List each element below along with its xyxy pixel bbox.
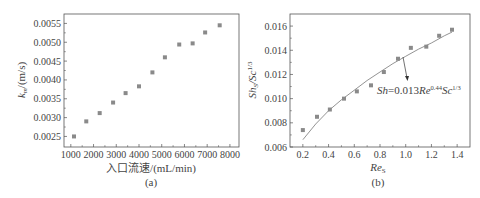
data-point bbox=[437, 34, 441, 38]
data-point bbox=[301, 128, 305, 132]
svg-text:km/(m/s): km/(m/s) bbox=[15, 62, 29, 99]
panel-label-a: (a) bbox=[145, 176, 158, 189]
panel-label-b: (b) bbox=[372, 176, 385, 189]
y-tick-label: 0.012 bbox=[265, 69, 288, 80]
plot-frame-a bbox=[64, 14, 239, 147]
y-tick-label: 0.0025 bbox=[34, 131, 62, 142]
data-point bbox=[409, 46, 413, 50]
data-point bbox=[315, 115, 319, 119]
fit-equation-annotation: Sh=0.013Re0.44Sc1/3 bbox=[377, 84, 461, 96]
x-tick-label: 1000 bbox=[61, 149, 81, 160]
chart-b: 0.0060.0080.0100.0120.0140.016 0.20.40.6… bbox=[246, 14, 470, 189]
x-tick-label: 5000 bbox=[152, 149, 172, 160]
data-point bbox=[328, 108, 332, 112]
x-tick-label: 3000 bbox=[106, 149, 126, 160]
x-axis-label-b: ReS bbox=[369, 161, 386, 175]
x-tick-label: 0.6 bbox=[348, 149, 361, 160]
x-tick-label: 0.8 bbox=[374, 149, 387, 160]
chart-a: 0.00250.00300.00350.00400.00450.00500.00… bbox=[15, 14, 240, 189]
x-tick-label: 1.4 bbox=[451, 149, 464, 160]
x-tick-label: 6000 bbox=[174, 149, 194, 160]
data-point bbox=[163, 55, 167, 59]
x-axis-label-a: 入口流速/(mL/min) bbox=[106, 161, 196, 175]
data-point bbox=[177, 43, 181, 47]
y-tick-label: 0.0050 bbox=[34, 37, 62, 48]
data-point bbox=[424, 45, 428, 49]
data-point bbox=[98, 111, 102, 115]
y-tick-label: 0.008 bbox=[265, 117, 288, 128]
x-tick-label: 1.2 bbox=[425, 149, 438, 160]
y-tick-label: 0.0055 bbox=[34, 18, 62, 29]
y-tick-label: 0.014 bbox=[265, 45, 288, 56]
data-point bbox=[218, 23, 222, 27]
y-tick-label: 0.010 bbox=[265, 93, 288, 104]
data-point bbox=[396, 57, 400, 61]
data-point bbox=[450, 28, 454, 32]
y-axis-label-a: km/(m/s) bbox=[15, 62, 29, 99]
plot-frame-b bbox=[290, 14, 470, 147]
x-axis-ticks-b: 0.20.40.60.81.01.21.4 bbox=[297, 144, 464, 160]
y-axis-ticks-b: 0.0060.0080.0100.0120.0140.016 bbox=[265, 21, 294, 153]
y-tick-label: 0.0040 bbox=[34, 74, 62, 85]
data-point bbox=[382, 70, 386, 74]
x-tick-label: 8000 bbox=[220, 149, 240, 160]
data-point bbox=[203, 30, 207, 34]
y-tick-label: 0.016 bbox=[265, 21, 288, 32]
x-tick-label: 4000 bbox=[129, 149, 149, 160]
data-point bbox=[84, 119, 88, 123]
data-point bbox=[342, 97, 346, 101]
data-point bbox=[355, 89, 359, 93]
y-tick-label: 0.006 bbox=[265, 142, 288, 153]
annotation-arrow bbox=[403, 57, 407, 78]
data-point bbox=[111, 101, 115, 105]
data-points-a bbox=[72, 23, 222, 138]
data-point bbox=[137, 84, 141, 88]
data-point bbox=[124, 91, 128, 95]
x-tick-label: 0.2 bbox=[297, 149, 310, 160]
data-point bbox=[150, 70, 154, 74]
y-tick-label: 0.0030 bbox=[34, 112, 62, 123]
svg-text:ShS/Sc1/3: ShS/Sc1/3 bbox=[246, 61, 260, 98]
arrowhead-icon bbox=[405, 76, 409, 81]
y-axis-label-b: ShS/Sc1/3 bbox=[246, 61, 260, 98]
data-point bbox=[191, 41, 195, 45]
data-point bbox=[72, 134, 76, 138]
y-tick-label: 0.0035 bbox=[34, 93, 62, 104]
y-tick-label: 0.0045 bbox=[34, 56, 62, 67]
data-point bbox=[369, 83, 373, 87]
x-tick-label: 0.4 bbox=[322, 149, 335, 160]
x-tick-label: 1.0 bbox=[399, 149, 412, 160]
x-tick-label: 7000 bbox=[197, 149, 217, 160]
x-tick-label: 2000 bbox=[84, 149, 104, 160]
y-axis-ticks-a: 0.00250.00300.00350.00400.00450.00500.00… bbox=[34, 18, 68, 142]
x-axis-ticks-a: 10002000300040005000600070008000 bbox=[61, 144, 240, 160]
figure: 0.00250.00300.00350.00400.00450.00500.00… bbox=[0, 0, 480, 198]
